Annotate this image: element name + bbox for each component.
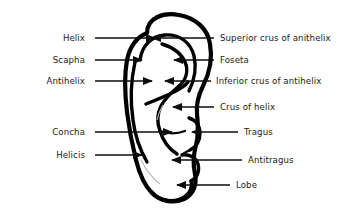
label-concha: Concha [52, 127, 85, 137]
antihelix-superior-crus-path [162, 44, 187, 86]
callout-superior-crus-of-anithelix[interactable]: Superior crus of anithelix [152, 33, 331, 43]
label-lobe: Lobe [236, 180, 257, 190]
callout-antihelix[interactable]: Antihelix [46, 76, 152, 86]
antitragus-path [182, 155, 199, 181]
label-helicis: Helicis [56, 150, 85, 160]
callout-concha[interactable]: Concha [52, 127, 172, 137]
label-crus-of-helix: Crus of helix [220, 102, 275, 112]
label-superior-crus-of-anithelix: Superior crus of anithelix [220, 33, 331, 43]
label-antihelix: Antihelix [46, 76, 85, 86]
ear-diagram-canvas: Helix Scapha Antihelix Concha Helicis [0, 0, 353, 215]
callout-tragus[interactable]: Tragus [192, 127, 273, 137]
callout-crus-of-helix[interactable]: Crus of helix [173, 102, 275, 112]
callout-inferior-crus-of-antihelix[interactable]: Inferior crus of antihelix [165, 76, 321, 86]
right-label-group: Superior crus of anithelix Foseta Inferi… [152, 33, 331, 190]
antihelix-stem-path [160, 131, 177, 154]
label-inferior-crus-of-antihelix: Inferior crus of antihelix [216, 76, 321, 86]
callout-helicis[interactable]: Helicis [56, 150, 142, 160]
lobe-path [152, 181, 191, 201]
label-scapha: Scapha [53, 55, 85, 65]
tragus-path [189, 118, 200, 150]
label-foseta: Foseta [220, 55, 249, 65]
ear-anatomy-diagram: Helix Scapha Antihelix Concha Helicis [0, 0, 353, 215]
label-tragus: Tragus [243, 127, 273, 137]
label-antitragus: Antitragus [248, 155, 294, 165]
left-label-group: Helix Scapha Antihelix Concha Helicis [46, 33, 172, 160]
label-helix: Helix [63, 33, 85, 43]
callout-lobe[interactable]: Lobe [177, 180, 257, 190]
